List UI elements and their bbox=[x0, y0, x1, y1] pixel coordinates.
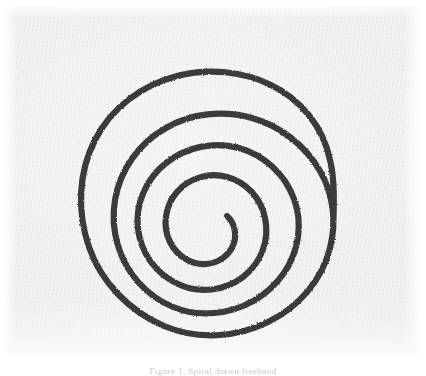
paper-sheet-background bbox=[7, 6, 417, 355]
figure-caption: Figure 1. Spiral drawn freehand bbox=[0, 367, 426, 376]
scanned-image-page: Figure 1. Spiral drawn freehand bbox=[0, 0, 426, 376]
caption-strip: Figure 1. Spiral drawn freehand bbox=[0, 367, 426, 376]
